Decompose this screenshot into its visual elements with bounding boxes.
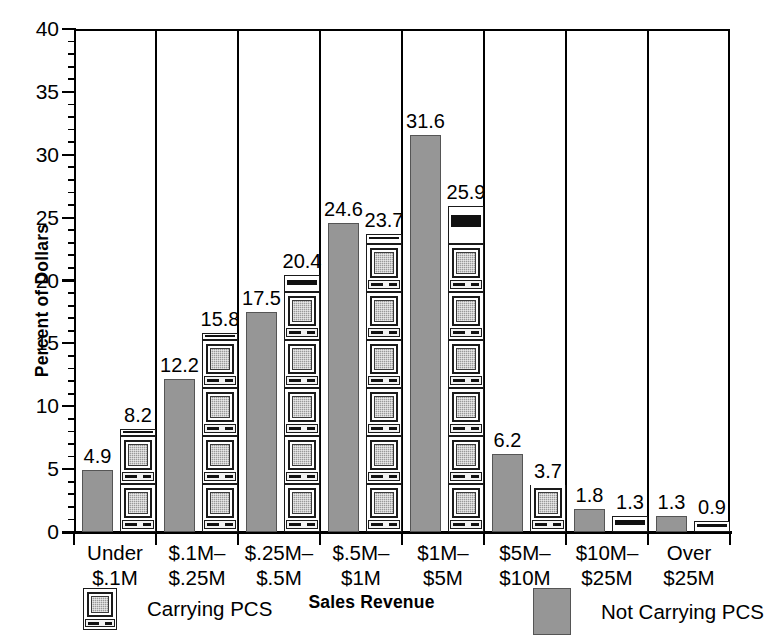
pc-keyboard-base-shape bbox=[286, 328, 318, 337]
y-tick-label: 0 bbox=[47, 521, 59, 542]
pc-screen-shape bbox=[128, 492, 149, 513]
pc-screen-shape bbox=[456, 492, 477, 513]
bar-value-label: 4.9 bbox=[68, 446, 127, 466]
pc-keyboard-base-shape bbox=[450, 520, 482, 529]
y-tick-label: 15 bbox=[36, 332, 59, 353]
bar-group: 24.623.7 bbox=[320, 29, 402, 532]
pc-screen-shape bbox=[374, 348, 395, 369]
bar-not-carrying-pcs bbox=[492, 454, 523, 532]
pc-computer-icon bbox=[284, 388, 320, 436]
pc-key-block-right bbox=[307, 427, 315, 430]
pc-keyboard-base-shape bbox=[286, 472, 318, 481]
bar-value-label: 17.5 bbox=[232, 288, 291, 308]
pc-keyboard-base-shape bbox=[286, 424, 318, 433]
pc-screen-shape bbox=[456, 348, 477, 369]
pc-computer-icon bbox=[366, 436, 402, 484]
pc-screen-shape bbox=[538, 492, 559, 513]
pc-key-block-left bbox=[371, 283, 383, 286]
y-tick-label: 5 bbox=[47, 458, 59, 479]
pc-computer-icon-partial bbox=[284, 275, 320, 292]
pc-key-block-right bbox=[389, 283, 397, 286]
pc-key-block-left bbox=[125, 523, 137, 526]
pc-screen-shape bbox=[91, 596, 110, 614]
pc-monitor-shape bbox=[452, 296, 481, 325]
pc-key-block-left bbox=[207, 523, 219, 526]
bar-carrying-pcs bbox=[694, 521, 730, 532]
pc-monitor-shape bbox=[370, 344, 399, 373]
pc-computer-icon bbox=[202, 484, 238, 532]
pc-keyboard-base-shape bbox=[368, 280, 400, 289]
pc-computer-icon-partial bbox=[612, 516, 648, 532]
pc-key-block-left bbox=[453, 283, 465, 286]
pc-computer-icon bbox=[448, 484, 484, 532]
pc-screen-shape bbox=[292, 444, 313, 465]
pc-key-block-left bbox=[88, 622, 99, 625]
pc-key-block-right bbox=[471, 523, 479, 526]
pc-monitor-shape bbox=[452, 488, 481, 517]
category-label: Over$25M bbox=[634, 540, 744, 590]
bar-carrying-pcs bbox=[448, 206, 484, 532]
pc-key-block-left bbox=[453, 475, 465, 478]
bar-value-label: 0.9 bbox=[686, 497, 738, 517]
pc-monitor-shape bbox=[452, 344, 481, 373]
pc-monitor-shape bbox=[452, 248, 481, 277]
pc-computer-icon bbox=[284, 292, 320, 340]
pc-key-block-left bbox=[289, 427, 301, 430]
pc-computer-icon-partial bbox=[202, 333, 238, 340]
pc-key-block-left bbox=[207, 379, 219, 382]
bar-carrying-pcs bbox=[612, 516, 648, 532]
bar-not-carrying-pcs bbox=[574, 509, 605, 532]
bar-not-carrying-pcs bbox=[246, 312, 277, 532]
pc-computer-icon bbox=[83, 588, 117, 630]
pc-screen-shape bbox=[210, 396, 231, 417]
pc-key-block-right bbox=[225, 379, 233, 382]
pc-monitor-shape bbox=[534, 488, 563, 517]
bar-not-carrying-pcs bbox=[164, 379, 195, 532]
y-tick-label: 10 bbox=[36, 395, 59, 416]
pc-monitor-shape bbox=[124, 440, 153, 469]
category-label-line: Over bbox=[634, 540, 744, 565]
pc-computer-icon bbox=[202, 340, 238, 388]
pc-computer-icon bbox=[448, 340, 484, 388]
pc-monitor-shape bbox=[288, 488, 317, 517]
pc-key-block-right bbox=[471, 331, 479, 334]
pc-partial-strip bbox=[369, 237, 400, 240]
legend-label-carrying-pcs: Carrying PCS bbox=[147, 597, 272, 621]
pc-key-block-right bbox=[389, 427, 397, 430]
pc-screen-shape bbox=[374, 492, 395, 513]
pc-computer-icon bbox=[284, 340, 320, 388]
pc-key-block-right bbox=[225, 523, 233, 526]
pc-computer-icon bbox=[366, 340, 402, 388]
pc-keyboard-base-shape bbox=[85, 619, 115, 627]
pc-keyboard-base-shape bbox=[204, 472, 236, 481]
pc-key-block-left bbox=[371, 379, 383, 382]
pc-key-block-right bbox=[225, 427, 233, 430]
pc-screen-shape bbox=[456, 300, 477, 321]
pc-key-block-left bbox=[535, 523, 547, 526]
y-tick-label: 30 bbox=[36, 144, 59, 165]
pc-monitor-shape bbox=[370, 488, 399, 517]
pc-partial-strip bbox=[123, 431, 154, 433]
pc-key-block-right bbox=[471, 475, 479, 478]
pc-monitor-shape bbox=[124, 488, 153, 517]
pc-key-block-left bbox=[207, 475, 219, 478]
y-tick-label: 40 bbox=[36, 18, 59, 39]
bar-group: 31.625.9 bbox=[402, 29, 484, 532]
pc-monitor-shape bbox=[288, 392, 317, 421]
pc-keyboard-base-shape bbox=[286, 520, 318, 529]
pc-key-block-left bbox=[289, 523, 301, 526]
bar-value-label: 12.2 bbox=[150, 355, 209, 375]
legend-label-not-carrying-pcs: Not Carrying PCS bbox=[601, 600, 764, 624]
pc-monitor-shape bbox=[370, 248, 399, 277]
pc-partial-strip bbox=[697, 524, 728, 527]
gray-swatch-icon bbox=[533, 588, 571, 635]
pc-monitor-shape bbox=[370, 392, 399, 421]
pc-key-block-right bbox=[307, 331, 315, 334]
y-tick-label: 35 bbox=[36, 81, 59, 102]
pc-key-block-right bbox=[105, 622, 112, 625]
legend-item-carrying-pcs: Carrying PCS bbox=[83, 588, 272, 630]
pc-key-block-right bbox=[389, 379, 397, 382]
pc-keyboard-base-shape bbox=[450, 472, 482, 481]
bar-group: 6.23.7 bbox=[484, 29, 566, 532]
bar-value-label: 6.2 bbox=[478, 430, 537, 450]
